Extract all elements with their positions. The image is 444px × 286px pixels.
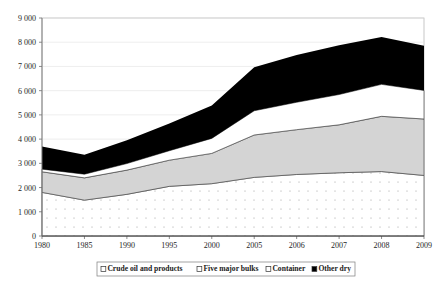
x-axis-labels: 1980198519901995200020052006200720082009: [34, 241, 432, 250]
y-axis-tick-label: 5 000: [18, 111, 36, 120]
legend-marker-0: [101, 267, 106, 272]
chart-legend: Crude oil and productsFive major bulksCo…: [97, 262, 355, 276]
y-axis-tick-label: 7 000: [18, 62, 36, 71]
legend-marker-3: [312, 267, 317, 272]
y-axis-tick-label: 6 000: [18, 87, 36, 96]
y-axis-tick-label: 1 000: [18, 208, 36, 217]
legend-label-3: Other dry: [318, 264, 351, 273]
legend-marker-2: [266, 267, 271, 272]
legend-label-2: Container: [272, 264, 306, 273]
x-axis-tick-label: 2000: [204, 241, 220, 250]
legend-marker-1: [197, 267, 202, 272]
x-axis-tick-label: 2006: [289, 241, 305, 250]
y-axis-tick-label: 0: [32, 232, 36, 241]
y-axis-tick-label: 3 000: [18, 159, 36, 168]
x-axis-tick-label: 1980: [34, 241, 50, 250]
stacked-area-chart: 01 0002 0003 0004 0005 0006 0007 0008 00…: [0, 0, 444, 286]
y-axis-tick-label: 4 000: [18, 135, 36, 144]
x-axis-tick-label: 2008: [374, 241, 390, 250]
x-axis-tick-label: 1990: [119, 241, 135, 250]
legend-label-0: Crude oil and products: [107, 264, 182, 273]
y-axis-labels: 01 0002 0003 0004 0005 0006 0007 0008 00…: [18, 14, 36, 241]
legend-label-1: Five major bulks: [203, 264, 258, 273]
x-axis-tick-label: 2007: [331, 241, 347, 250]
y-axis-tick-label: 2 000: [18, 184, 36, 193]
x-axis-tick-label: 2005: [246, 241, 262, 250]
x-axis-tick-label: 1995: [161, 241, 177, 250]
chart-canvas: 01 0002 0003 0004 0005 0006 0007 0008 00…: [0, 0, 444, 286]
x-axis-tick-label: 1985: [76, 241, 92, 250]
x-axis-tick-label: 2009: [416, 241, 432, 250]
y-axis-tick-label: 9 000: [18, 14, 36, 23]
y-axis-tick-label: 8 000: [18, 38, 36, 47]
